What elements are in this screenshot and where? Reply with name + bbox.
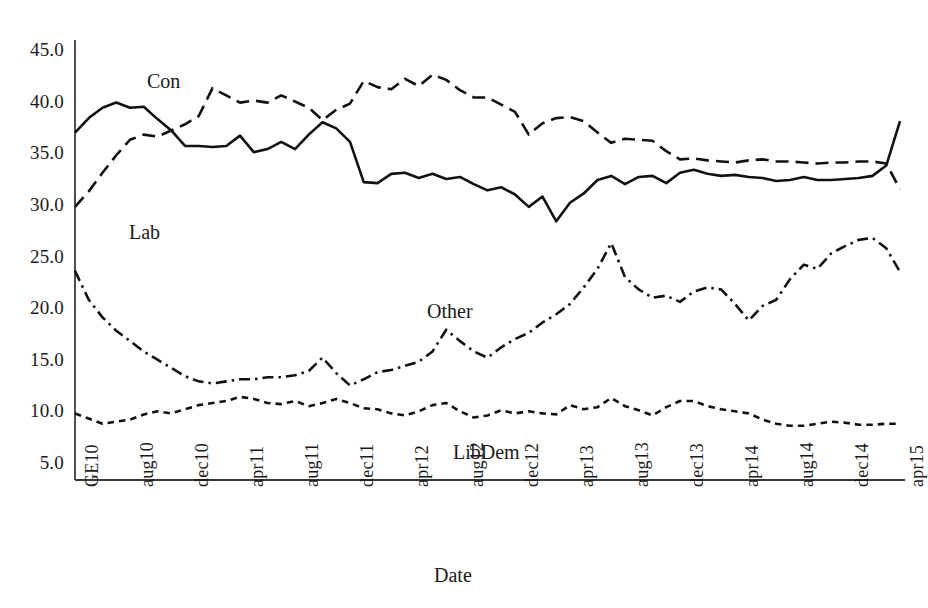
x-axis-tick-label: GE10: [82, 444, 103, 487]
y-axis-tick-label: 35.0: [2, 142, 64, 164]
y-axis-tick-label: 20.0: [2, 297, 64, 319]
series-label-con: Con: [147, 70, 180, 93]
x-axis-tick-label: apr13: [577, 445, 598, 487]
y-axis-tick-label: 40.0: [2, 91, 64, 113]
y-axis-tick-label: 5.0: [2, 452, 64, 474]
x-axis-tick-label: apr15: [907, 445, 928, 487]
y-axis-tick-label: 15.0: [2, 349, 64, 371]
axes: [75, 40, 905, 480]
x-axis-tick-label: aug10: [137, 442, 158, 487]
x-axis-tick-label: apr14: [742, 445, 763, 487]
x-axis-tick-label: aug11: [302, 443, 323, 487]
series-group: [75, 75, 900, 426]
series-line-libdem: [75, 397, 900, 426]
series-line-other: [75, 238, 900, 386]
y-axis-tick-label: 25.0: [2, 246, 64, 268]
x-axis-tick-label: dec13: [687, 443, 708, 487]
x-axis-tick-label: aug13: [632, 442, 653, 487]
series-line-con: [75, 75, 900, 207]
series-label-lab: Lab: [129, 221, 160, 244]
x-axis-tick-label: dec12: [522, 443, 543, 487]
x-axis-tick-label: apr12: [412, 445, 433, 487]
y-axis-tick-label: 30.0: [2, 194, 64, 216]
x-axis-tick-label: dec10: [192, 443, 213, 487]
x-axis-tick-label: dec11: [357, 444, 378, 487]
y-axis-tick-label: 45.0: [2, 39, 64, 61]
x-axis-title: Date: [434, 564, 472, 587]
x-axis-tick-label: dec14: [852, 443, 873, 487]
series-label-other: Other: [427, 300, 473, 323]
y-axis-tick-label: 10.0: [2, 400, 64, 422]
x-axis-tick-label: apr11: [247, 446, 268, 487]
x-axis-tick-label: aug14: [797, 442, 818, 487]
series-label-libdem: LibDem: [453, 441, 520, 464]
